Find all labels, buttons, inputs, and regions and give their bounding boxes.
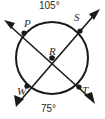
arrowhead-p-icon <box>4 20 15 29</box>
point-label-p: P <box>24 18 31 29</box>
geometry-diagram-svg <box>0 0 105 119</box>
arc-measure-top: 105° <box>39 1 60 11</box>
point-label-s: S <box>74 12 80 23</box>
point-dot-s <box>77 28 82 33</box>
arc-measure-bottom: 75° <box>41 104 56 114</box>
point-label-r: R <box>49 46 56 57</box>
point-dot-t <box>76 84 81 89</box>
point-label-t: T <box>82 85 88 96</box>
geometry-figure: P S W T R 105° 75° <box>0 0 105 119</box>
point-dot-p <box>21 30 26 35</box>
point-label-w: W <box>17 86 26 97</box>
